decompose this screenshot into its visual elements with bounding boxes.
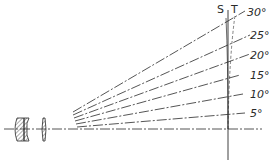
angle-label-20: 20° <box>250 49 270 62</box>
field-rays <box>73 11 250 127</box>
optics-diagram: S T 30° 25° 20° 15° 10° 5° <box>0 0 275 164</box>
angle-label-15: 15° <box>250 69 270 82</box>
angle-label-10: 10° <box>250 88 270 101</box>
tangential-label: T <box>230 3 238 16</box>
lens-single <box>42 118 46 141</box>
sagittal-label: S <box>217 3 224 16</box>
lens-doublet <box>15 118 29 141</box>
angle-label-30: 30° <box>247 6 267 19</box>
angle-label-5: 5° <box>250 107 263 120</box>
angle-label-25: 25° <box>250 29 270 42</box>
tangential-curve <box>228 15 235 129</box>
